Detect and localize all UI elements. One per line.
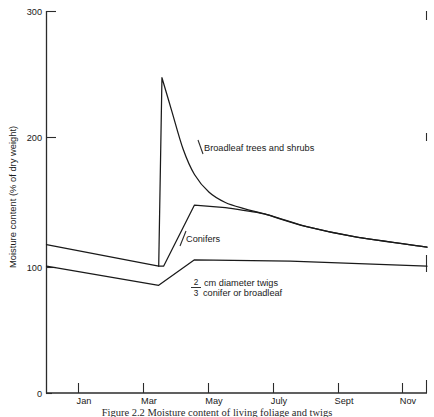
annotation-conifers-label: Conifers [186,234,221,244]
series-line-conifers [47,205,428,266]
x-tick-group [79,383,403,393]
y-tick-label-100: 100 [27,263,42,273]
axis-group [46,11,427,394]
y-axis-title: Moisture content (% of dry weight) [7,126,18,268]
y-tick-group [46,12,56,394]
x-tick-label-jan: Jan [77,396,92,406]
y-tick-label-300: 300 [27,7,42,17]
y-tick-labels: 300 200 100 0 [27,7,42,399]
series-group [47,78,428,286]
annotation-broadleaf-label: Broadleaf trees and shrubs [204,143,315,153]
figure-caption: Figure 2.2 Moisture content of living fo… [102,407,333,417]
x-tick-label-sept: Sept [335,396,354,406]
twigs-label-line1: cm diameter twigs [204,278,278,288]
y-tick-label-0: 0 [37,389,42,399]
y-tick-label-200: 200 [27,133,42,143]
x-tick-label-may: May [205,396,223,406]
x-tick-label-july: July [271,396,288,406]
annotation-leaders [180,140,203,246]
x-tick-label-nov: Nov [400,396,417,406]
moisture-content-line-chart: 300 200 100 0 Moisture content (% of dry… [0,0,434,417]
annotation-twigs-group: 2 3 cm diameter twigs conifer or broadle… [191,278,283,298]
twigs-fraction-numerator: 2 [194,278,199,287]
x-tick-labels: Jan Mar May July Sept Nov [77,396,417,406]
figure-container: 300 200 100 0 Moisture content (% of dry… [0,0,434,417]
x-tick-label-mar: Mar [141,396,157,406]
twigs-label-line2: conifer or broadleaf [203,288,283,298]
twigs-fraction-denominator: 3 [194,289,199,298]
broadleaf-leader [198,140,203,154]
